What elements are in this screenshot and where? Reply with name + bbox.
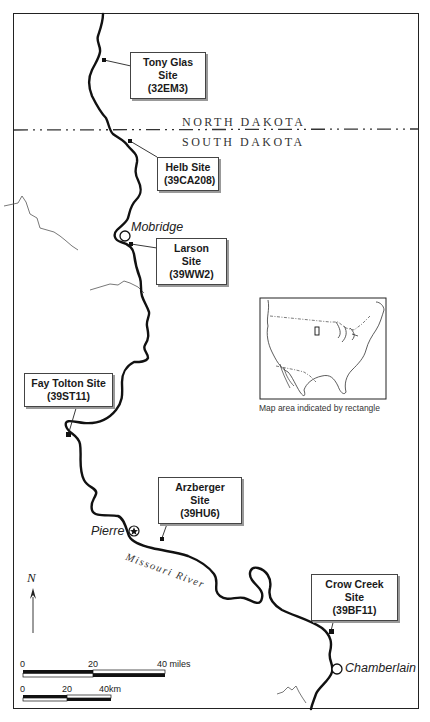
site-code: (39HU6) xyxy=(165,507,235,520)
site-label-arzberger: Arzberger Site (39HU6) xyxy=(158,477,242,524)
site-name: Crow Creek Site xyxy=(318,578,391,604)
site-code: (39ST11) xyxy=(31,390,106,403)
site-code: (32EM3) xyxy=(137,82,199,95)
city-marker-chamberlain xyxy=(332,664,342,674)
study-area-rectangle xyxy=(315,327,319,335)
north-label: N xyxy=(27,570,36,586)
city-label-chamberlain: Chamberlain xyxy=(345,661,416,675)
site-name: Tony Glas Site xyxy=(137,56,199,82)
scale-km-tick-20: 20 xyxy=(62,684,72,694)
site-label-helb: Helb Site (39CA208) xyxy=(157,157,219,191)
state-label-south-dakota: SOUTH DAKOTA xyxy=(182,135,305,150)
site-marker-helb xyxy=(128,139,132,143)
scale-bar-km xyxy=(23,695,111,701)
north-arrow-icon xyxy=(30,588,36,633)
site-marker-larson xyxy=(129,242,133,246)
inset-map-caption: Map area indicated by rectangle xyxy=(259,403,380,413)
scale-miles-tick-20: 20 xyxy=(88,659,98,669)
leader-larson xyxy=(131,244,157,248)
site-name: Helb Site xyxy=(164,161,212,174)
site-label-crow-creek: Crow Creek Site (39BF11) xyxy=(311,574,398,621)
leader-tony-glas xyxy=(104,60,131,66)
city-marker-mobridge xyxy=(120,231,130,241)
site-label-fay-tolton: Fay Tolton Site (39ST11) xyxy=(24,373,113,407)
site-name: Larson Site xyxy=(163,242,220,268)
site-label-tony-glas: Tony Glas Site (32EM3) xyxy=(130,52,206,99)
site-marker-tony-glas xyxy=(102,58,106,62)
site-label-larson: Larson Site (39WW2) xyxy=(156,238,227,285)
state-label-north-dakota: NORTH DAKOTA xyxy=(182,115,305,130)
city-label-pierre: Pierre xyxy=(91,524,124,538)
scale-bar-miles xyxy=(23,670,165,677)
tributary-south xyxy=(277,686,306,703)
scale-km-tick-40: 40km xyxy=(99,684,121,694)
tributary-moreau-river xyxy=(90,281,144,293)
city-label-mobridge: Mobridge xyxy=(131,220,183,234)
site-marker-arzberger xyxy=(160,537,164,541)
site-code: (39WW2) xyxy=(163,268,220,281)
scale-km-tick-0: 0 xyxy=(20,684,25,694)
scale-miles-tick-0: 0 xyxy=(20,659,25,669)
tributary-grand-river xyxy=(4,196,78,250)
site-code: (39CA208) xyxy=(164,174,212,187)
leader-helb xyxy=(130,141,157,157)
site-code: (39BF11) xyxy=(318,604,391,617)
site-name: Fay Tolton Site xyxy=(31,377,106,390)
site-name: Arzberger Site xyxy=(165,481,235,507)
site-marker-fay-tolton xyxy=(66,432,71,437)
inset-map-usa xyxy=(260,298,386,399)
site-marker-crow-creek xyxy=(329,629,334,634)
leader-fay-tolton xyxy=(69,405,77,432)
scale-miles-tick-40: 40 miles xyxy=(157,659,191,669)
capital-star-icon xyxy=(129,526,139,536)
